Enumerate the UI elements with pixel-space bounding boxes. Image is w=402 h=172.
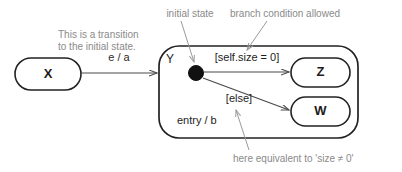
state-x-label: X [44,66,53,81]
diagram-canvas: Y X e / a Z W [self.size = 0] [0,0,402,172]
transition-x-to-y-label: e / a [108,51,130,63]
annotation-branch-condition: branch condition allowed [230,8,340,50]
annotation-branch-condition-text: branch condition allowed [230,8,340,19]
initial-state-dot[interactable] [189,66,204,81]
state-z[interactable]: Z [291,58,350,87]
composite-state-y-label: Y [166,52,174,66]
transition-x-to-y[interactable]: e / a [81,51,157,73]
guard-label-else: [else] [226,92,252,104]
state-diagram: Y X e / a Z W [self.size = 0] [0,0,402,172]
state-w[interactable]: W [291,97,350,126]
annotation-transition-note-line1: This is a transition [58,29,139,40]
state-z-label: Z [317,64,325,79]
entry-activity-label: entry / b [177,114,217,126]
annotation-else-equivalent-text: here equivalent to 'size ≠ 0' [233,153,354,164]
state-x[interactable]: X [15,58,81,90]
annotation-initial-state-text: initial state [166,8,214,19]
state-w-label: W [314,103,327,118]
annotation-transition-note-line2: to the initial state. [58,41,136,52]
guard-label-self-size: [self.size = 0] [215,51,280,63]
annotation-transition-note: This is a transition to the initial stat… [58,29,139,52]
